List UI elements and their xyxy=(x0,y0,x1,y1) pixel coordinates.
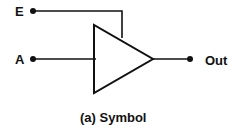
output-label: Out xyxy=(205,54,227,67)
caption: (a) Symbol xyxy=(80,111,146,124)
buffer-triangle xyxy=(94,25,153,93)
input-a-label: A xyxy=(15,53,24,66)
diagram-canvas: E A Out (a) Symbol xyxy=(0,0,242,133)
enable-label: E xyxy=(15,5,24,18)
enable-terminal-dot xyxy=(30,8,36,14)
input-a-terminal-dot xyxy=(30,56,36,62)
output-terminal-dot xyxy=(187,56,193,62)
